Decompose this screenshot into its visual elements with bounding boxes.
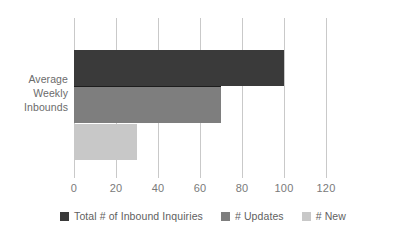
xtick-label-80: 80 bbox=[222, 182, 262, 194]
legend-label-total: Total # of Inbound Inquiries bbox=[74, 210, 203, 222]
chart-legend: Total # of Inbound Inquiries # Updates #… bbox=[0, 210, 406, 222]
bar-new bbox=[74, 124, 137, 160]
xtick-label-20: 20 bbox=[96, 182, 136, 194]
gridline-120 bbox=[326, 18, 327, 178]
xtick-label-60: 60 bbox=[180, 182, 220, 194]
legend-label-new: # New bbox=[316, 210, 346, 222]
legend-label-updates: # Updates bbox=[235, 210, 284, 222]
legend-swatch-icon-updates bbox=[221, 212, 230, 221]
category-label-line-3: Inbounds bbox=[4, 100, 68, 114]
category-label: Average Weekly Inbounds bbox=[4, 72, 68, 114]
legend-item-updates: # Updates bbox=[221, 210, 284, 222]
bars-layer bbox=[74, 50, 326, 160]
xtick-label-100: 100 bbox=[264, 182, 304, 194]
legend-item-total-inbound-inquiries: Total # of Inbound Inquiries bbox=[60, 210, 203, 222]
category-label-line-1: Average bbox=[4, 72, 68, 86]
legend-swatch-icon-total bbox=[60, 212, 69, 221]
legend-item-new: # New bbox=[302, 210, 346, 222]
xtick-label-40: 40 bbox=[138, 182, 178, 194]
bar-updates bbox=[74, 87, 221, 123]
legend-swatch-icon-new bbox=[302, 212, 311, 221]
xtick-label-0: 0 bbox=[54, 182, 94, 194]
xtick-label-120: 120 bbox=[306, 182, 346, 194]
bar-total-inbound-inquiries bbox=[74, 50, 284, 86]
bar-chart: Average Weekly Inbounds 0 20 40 60 80 10… bbox=[0, 0, 406, 237]
category-label-line-2: Weekly bbox=[4, 86, 68, 100]
